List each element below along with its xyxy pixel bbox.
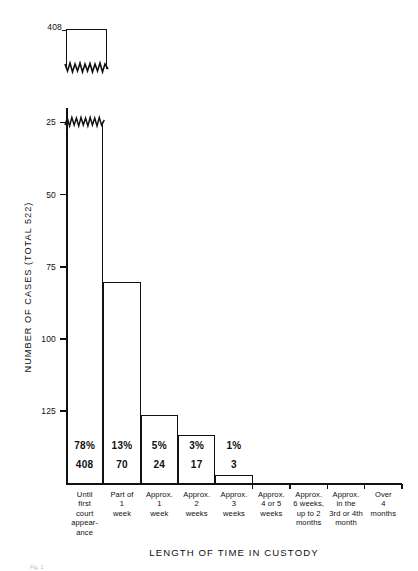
y-axis-tick-label: 100 xyxy=(30,334,56,344)
y-axis-tick-label: 75 xyxy=(30,262,56,272)
x-axis-title: LENGTH OF TIME IN CUSTODY xyxy=(66,547,402,558)
y-axis-tick xyxy=(60,410,66,412)
bar-percent-label: 78% xyxy=(66,440,103,451)
bar-value-label: 78%408 xyxy=(66,440,103,470)
y-axis-tick-label: 125 xyxy=(30,406,56,416)
x-axis-tick xyxy=(364,484,365,489)
x-axis-tick xyxy=(252,484,253,489)
bar-percent-label: 13% xyxy=(103,440,140,451)
category-label-line: month xyxy=(323,518,368,527)
x-axis-category-label-group: Untilfirstcourtappear-ancePart of1weekAp… xyxy=(66,490,402,542)
y-axis-tick xyxy=(60,194,66,196)
bar-value-label-group: 78%40813%705%243%171%3 xyxy=(66,440,402,484)
bar-group xyxy=(66,100,402,484)
y-axis-tick xyxy=(60,338,66,340)
bar-value-label: 13%70 xyxy=(103,440,140,470)
break-value-label: 408 xyxy=(36,22,62,32)
category-label-line: 4 xyxy=(361,499,406,508)
y-axis-tick-label: 50 xyxy=(30,190,56,200)
category-label-line: Over xyxy=(361,490,406,499)
bar-count-label: 17 xyxy=(178,459,215,470)
y-axis-tick xyxy=(60,266,66,268)
y-axis-tick xyxy=(60,122,66,124)
category-label-line: ance xyxy=(62,528,107,537)
bar-count-label: 408 xyxy=(66,459,103,470)
bar-1 xyxy=(66,123,103,484)
x-axis-tick xyxy=(289,484,290,489)
axis-break-zigzag-icon xyxy=(65,61,108,74)
bar-count-label: 24 xyxy=(141,459,178,470)
bar-percent-label: 5% xyxy=(141,440,178,451)
bar-value-label: 1%3 xyxy=(215,440,252,470)
y-axis-tick-label: 25 xyxy=(30,117,56,127)
bar-top-break-zigzag-icon xyxy=(65,116,104,129)
x-axis-tick xyxy=(401,484,402,489)
bar-percent-label: 3% xyxy=(178,440,215,451)
bar-value-label: 5%24 xyxy=(141,440,178,470)
bar-count-label: 70 xyxy=(103,459,140,470)
x-axis-category-label: Over4months xyxy=(361,490,406,518)
break-tick-mark xyxy=(62,30,67,32)
category-label-line: appear- xyxy=(62,518,107,527)
bar-percent-label: 1% xyxy=(215,440,252,451)
chart-canvas: 408 78%40813%705%243%171%3 Untilfirstcou… xyxy=(0,0,418,571)
y-axis-title: NUMBER OF CASES (TOTAL 522) xyxy=(23,187,33,387)
bar-count-label: 3 xyxy=(215,459,252,470)
figure-caption: Fig. 1 xyxy=(30,564,230,570)
bar-value-label: 3%17 xyxy=(178,440,215,470)
x-axis-tick xyxy=(327,484,328,489)
category-label-line: months xyxy=(361,509,406,518)
broken-bar-top-segment xyxy=(66,29,107,69)
